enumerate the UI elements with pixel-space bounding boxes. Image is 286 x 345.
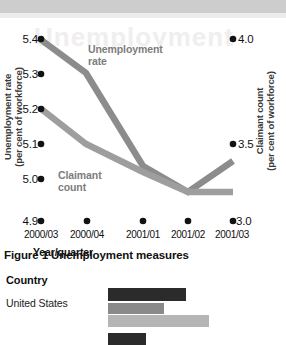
left-tick-dot-5-0 [38,176,45,183]
x-tick-label-2000-04: 2000/04 [64,229,110,240]
scan-artifact-band [0,0,286,13]
table-bar-1 [108,288,186,301]
figure-caption: Figure 1 Unemployment measures [4,249,189,261]
table-row-label-united-states: United States [6,297,68,309]
left-tick-dot-5-4 [38,36,45,43]
table-bar-2 [108,303,164,314]
left-tick-dot-4-9 [38,218,45,225]
left-tick-dot-5-1 [38,141,45,148]
right-tick-dot-4-0 [230,36,237,43]
x-tick-dot-2001-02 [185,218,192,225]
x-tick-dot-2000-04 [84,218,91,225]
right-tick-dot-3-0 [230,218,237,225]
figure-unemployment-measures: Unemployment rate (per cent of workforce… [0,18,286,268]
table-bar-4 [108,333,146,345]
table-fragment: Country United States [0,274,286,345]
right-tick-dot-3-5 [230,141,237,148]
x-tick-label-2000-03: 2000/03 [18,229,64,240]
table-bar-3 [108,315,209,327]
x-tick-label-2001-02: 2001/02 [165,229,211,240]
x-tick-dot-2001-01 [140,218,147,225]
series-label-claimant-count: Claimantcount [58,170,102,193]
table-column-header-country: Country [6,274,47,286]
left-tick-dot-5-3 [38,71,45,78]
series-label-unemployment-rate: Unemploymentrate [88,44,163,67]
x-tick-label-2001-01: 2001/01 [120,229,166,240]
left-tick-dot-5-2 [38,106,45,113]
x-tick-label-2001-03: 2001/03 [209,229,255,240]
